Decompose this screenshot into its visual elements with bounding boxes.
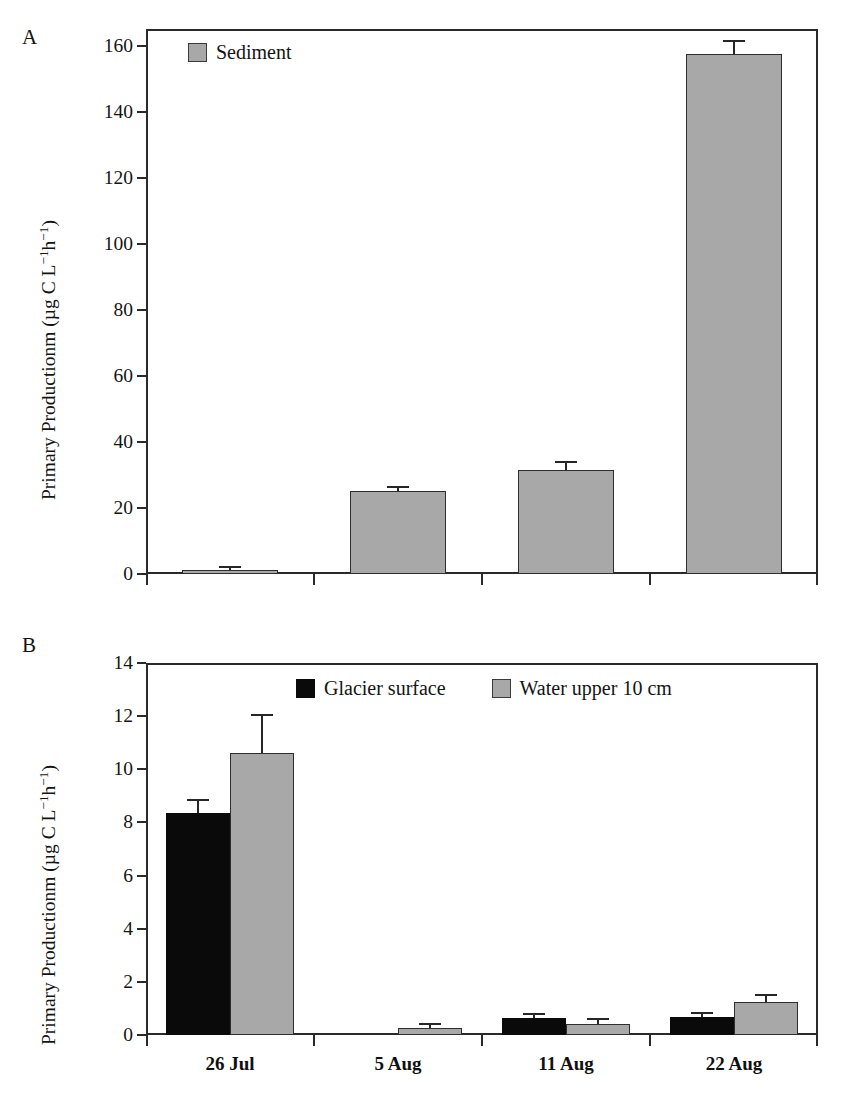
x-tick-label: 22 Aug — [706, 1053, 763, 1075]
error-bar-cap — [187, 799, 209, 801]
y-tick-label: 0 — [123, 563, 133, 585]
panel-b-frame-top — [146, 663, 818, 665]
y-tick-mark — [137, 441, 146, 443]
y-tick-label: 8 — [123, 811, 133, 833]
error-bar-cap — [755, 994, 777, 996]
error-bar — [597, 1020, 599, 1025]
error-bar — [229, 568, 231, 570]
y-tick-mark — [137, 928, 146, 930]
error-bar-cap — [419, 1023, 441, 1025]
y-tick-mark — [137, 875, 146, 877]
y-tick-label: 80 — [114, 299, 134, 321]
y-tick-label: 6 — [123, 865, 133, 887]
y-tick-mark — [137, 662, 146, 664]
y-tick-mark — [137, 111, 146, 113]
y-tick-label: 60 — [114, 365, 134, 387]
error-bar — [261, 716, 263, 753]
y-tick-label: 40 — [114, 431, 134, 453]
x-tick-mark — [649, 1035, 651, 1046]
y-tick-label: 160 — [104, 35, 133, 57]
bar — [518, 470, 614, 574]
legend-label: Sediment — [216, 41, 292, 64]
error-bar — [397, 488, 399, 491]
y-tick-mark — [137, 715, 146, 717]
y-tick-mark — [137, 821, 146, 823]
legend-swatch-icon — [492, 679, 511, 698]
x-tick-mark — [816, 574, 818, 585]
x-tick-label: 5 Aug — [375, 1053, 422, 1075]
panel-a: A Primary Productionm (µg C L−1h−1) 0204… — [0, 0, 848, 600]
y-tick-label: 2 — [123, 971, 133, 993]
x-tick-mark — [313, 574, 315, 585]
y-tick-label: 140 — [104, 101, 133, 123]
x-tick-mark — [481, 574, 483, 585]
legend-swatch-icon — [188, 43, 207, 62]
bar — [182, 570, 278, 574]
error-bar — [197, 801, 199, 813]
error-bar — [701, 1014, 703, 1017]
x-tick-label: 26 Jul — [205, 1053, 254, 1075]
bar — [166, 813, 230, 1035]
x-tick-mark — [146, 574, 148, 585]
bar — [398, 1028, 462, 1035]
panel-b-legend: Glacier surfaceWater upper 10 cm — [296, 677, 672, 700]
panel-b-letter: B — [22, 633, 36, 658]
error-bar — [733, 42, 735, 54]
y-tick-label: 120 — [104, 167, 133, 189]
panel-a-frame-right — [816, 29, 818, 574]
error-bar-cap — [387, 486, 409, 488]
x-tick-label: 11 Aug — [538, 1053, 593, 1075]
panel-a-legend: Sediment — [188, 41, 292, 64]
y-tick-mark — [137, 573, 146, 575]
error-bar-cap — [523, 1013, 545, 1015]
y-tick-label: 100 — [104, 233, 133, 255]
y-tick-mark — [137, 507, 146, 509]
bar — [734, 1002, 798, 1035]
y-tick-label: 10 — [114, 758, 134, 780]
error-bar-cap — [587, 1018, 609, 1020]
error-bar-cap — [251, 714, 273, 716]
error-bar-cap — [723, 40, 745, 42]
y-tick-mark — [137, 243, 146, 245]
panel-b: B Primary Productionm (µg C L−1h−1) 0246… — [0, 615, 848, 1110]
figure-root: A Primary Productionm (µg C L−1h−1) 0204… — [0, 0, 848, 1110]
y-tick-label: 4 — [123, 918, 133, 940]
x-tick-mark — [649, 574, 651, 585]
y-tick-mark — [137, 981, 146, 983]
x-tick-mark — [313, 1035, 315, 1046]
legend-label: Water upper 10 cm — [520, 677, 672, 700]
y-tick-label: 12 — [114, 705, 134, 727]
y-tick-label: 14 — [114, 652, 134, 674]
legend-label: Glacier surface — [324, 677, 446, 700]
y-tick-mark — [137, 45, 146, 47]
panel-a-frame-top — [146, 29, 818, 31]
legend-item: Water upper 10 cm — [492, 677, 672, 700]
panel-b-frame-right — [816, 663, 818, 1035]
bar — [686, 54, 782, 574]
legend-item: Glacier surface — [296, 677, 446, 700]
x-tick-mark — [816, 1035, 818, 1046]
panel-b-frame-left — [146, 663, 148, 1035]
y-tick-mark — [137, 1034, 146, 1036]
bar — [502, 1018, 566, 1035]
panel-a-frame-left — [146, 29, 148, 574]
y-tick-mark — [137, 309, 146, 311]
error-bar — [429, 1025, 431, 1028]
y-tick-mark — [137, 768, 146, 770]
y-tick-label: 0 — [123, 1024, 133, 1046]
error-bar-cap — [555, 461, 577, 463]
panel-b-plot-area: 02468101214 26 Jul5 Aug11 Aug22 Aug Glac… — [146, 663, 818, 1035]
legend-swatch-icon — [296, 679, 315, 698]
error-bar — [565, 463, 567, 470]
bar — [230, 753, 294, 1035]
y-tick-mark — [137, 177, 146, 179]
panel-b-y-axis-label: Primary Productionm (µg C L−1h−1) — [38, 765, 60, 1045]
panel-a-y-axis-label: Primary Productionm (µg C L−1h−1) — [38, 220, 60, 500]
y-tick-label: 20 — [114, 497, 134, 519]
y-tick-mark — [137, 375, 146, 377]
error-bar — [765, 996, 767, 1001]
panel-a-plot-area: 020406080100120140160 Sediment — [146, 29, 818, 574]
error-bar — [533, 1015, 535, 1017]
panel-a-letter: A — [22, 25, 37, 50]
bar — [566, 1024, 630, 1035]
